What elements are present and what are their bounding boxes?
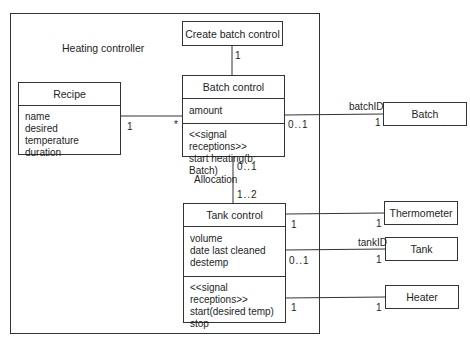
multiplicity-heater-end: 1 — [376, 302, 382, 314]
attribute: volume — [190, 233, 279, 245]
multiplicity-tank-control-end: 0..1 — [289, 255, 310, 267]
operation: start(desired temp) — [190, 306, 279, 318]
class-header: Recipe — [19, 83, 120, 106]
class-tank-control[interactable]: Tank control volume date last cleaned de… — [183, 203, 286, 323]
stereotype: <<signal receptions>> — [190, 282, 279, 306]
attributes-compartment: name desired temperature duration — [19, 106, 120, 163]
multiplicity-create-batch: 1 — [235, 50, 241, 62]
operations-compartment: <<signal receptions>> start(desired temp… — [184, 276, 285, 334]
class-name: Create batch control — [185, 28, 280, 40]
multiplicity-tank-end: 1 — [376, 254, 382, 266]
attribute: date last cleaned — [190, 245, 279, 257]
attribute: amount — [189, 105, 278, 117]
class-name: Tank — [410, 243, 432, 255]
class-name: Batch — [412, 108, 439, 120]
class-name: Tank control — [206, 209, 263, 221]
class-create-batch-control[interactable]: Create batch control — [182, 21, 283, 46]
multiplicity-thermometer-end: 1 — [376, 218, 382, 230]
class-name: Recipe — [53, 88, 86, 100]
attributes-compartment: volume date last cleaned destemp — [184, 227, 285, 276]
class-tank[interactable]: Tank — [385, 237, 458, 261]
multiplicity-thermometer-tank-end: 1 — [291, 219, 297, 231]
attribute: name — [25, 111, 114, 123]
qualifier-batchid: batchID — [349, 101, 383, 113]
multiplicity-recipe-end: 1 — [127, 121, 133, 133]
stereotype: <<signal receptions>> — [189, 129, 278, 153]
class-heater[interactable]: Heater — [385, 285, 459, 309]
multiplicity-allocation-tank: 1..2 — [237, 189, 258, 201]
class-recipe[interactable]: Recipe name desired temperature duration — [18, 82, 121, 155]
class-header: Batch control — [183, 76, 284, 99]
qualifier-tankid: tankID — [358, 237, 387, 249]
multiplicity-batch-control-star: * — [174, 119, 178, 131]
attribute: duration — [25, 147, 114, 159]
operations-compartment: <<signal receptions>> start heating(b: B… — [183, 123, 284, 181]
class-batch-control[interactable]: Batch control amount <<signal receptions… — [182, 75, 285, 157]
attribute: desired temperature — [25, 123, 114, 147]
frame-title: Heating controller — [62, 42, 144, 54]
class-batch[interactable]: Batch — [383, 102, 467, 126]
attributes-compartment: amount — [183, 99, 284, 123]
multiplicity-heater-tank-end: 1 — [291, 302, 297, 314]
class-name: Batch control — [203, 81, 264, 93]
multiplicity-allocation-batch: 0..1 — [237, 161, 258, 173]
association-name-allocation: Allocation — [194, 174, 237, 186]
attribute: destemp — [190, 257, 279, 269]
class-name: Heater — [406, 291, 438, 303]
class-thermometer[interactable]: Thermometer — [384, 201, 458, 225]
class-header: Tank control — [184, 204, 285, 227]
multiplicity-batch-end: 1 — [375, 117, 381, 129]
operation: stop — [190, 318, 279, 330]
multiplicity-batch-control-end: 0..1 — [288, 119, 309, 131]
class-name: Thermometer — [389, 207, 452, 219]
